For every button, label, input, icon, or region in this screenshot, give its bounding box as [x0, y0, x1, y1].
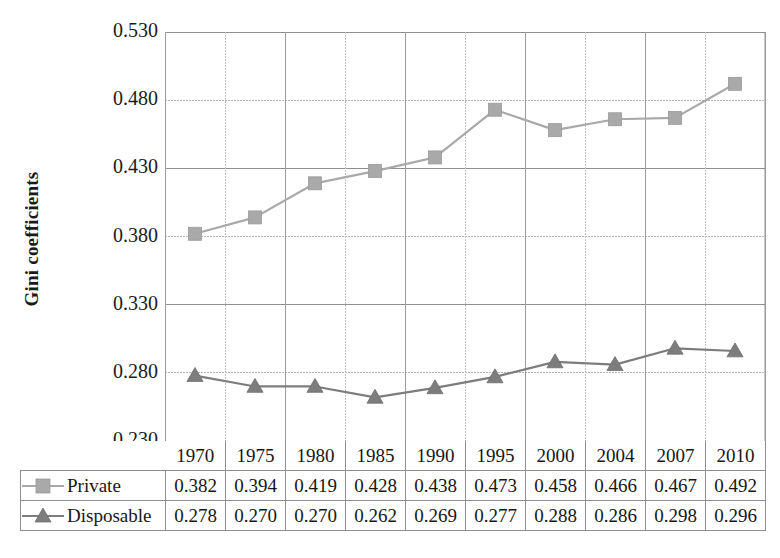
table-cell: 0.269 — [406, 501, 466, 531]
table-column-header: 2010 — [706, 441, 766, 471]
legend-label: Disposable — [67, 506, 151, 525]
marker-square — [189, 227, 202, 240]
data-point-disposable-2007 — [667, 340, 683, 354]
marker-square — [729, 77, 742, 90]
y-tick-label: 0.430 — [86, 155, 158, 178]
table-column-header: 1985 — [346, 441, 406, 471]
data-point-disposable-1980 — [307, 378, 323, 392]
legend-label: Private — [67, 476, 121, 495]
legend-row-disposable: Disposable — [21, 501, 166, 531]
data-point-private-1990 — [429, 151, 442, 164]
marker-square — [309, 177, 322, 190]
table-cell: 0.270 — [226, 501, 286, 531]
y-tick-label: 0.530 — [86, 19, 158, 42]
data-point-private-2004 — [609, 113, 622, 126]
data-point-private-1970 — [189, 227, 202, 240]
marker-triangle — [307, 378, 323, 392]
plot-area — [165, 32, 765, 441]
table-cell: 0.286 — [586, 501, 646, 531]
table-cell: 0.270 — [286, 501, 346, 531]
table-column-header: 1975 — [226, 441, 286, 471]
table-column-header: 2000 — [526, 441, 586, 471]
marker-square — [369, 165, 382, 178]
table-cell: 0.419 — [286, 471, 346, 501]
data-point-private-2010 — [729, 77, 742, 90]
marker-triangle — [547, 354, 563, 368]
marker-square — [549, 124, 562, 137]
table-column-header: 2004 — [586, 441, 646, 471]
y-tick-label: 0.480 — [86, 87, 158, 110]
table-cell: 0.278 — [166, 501, 226, 531]
chart-figure: Gini coefficients 0.5300.4800.4300.3800.… — [0, 0, 780, 558]
data-point-private-2007 — [669, 111, 682, 124]
table-cell: 0.458 — [526, 471, 586, 501]
data-table: 1970197519801985199019952000200420072010… — [20, 441, 766, 531]
table-cell: 0.438 — [406, 471, 466, 501]
marker-square — [609, 113, 622, 126]
y-tick-label: 0.380 — [86, 224, 158, 247]
legend-marker-triangle-icon — [21, 506, 65, 526]
plot-canvas — [165, 32, 765, 441]
table-header-row: 1970197519801985199019952000200420072010 — [21, 441, 766, 471]
y-tick-label: 0.330 — [86, 292, 158, 315]
table-column-header: 1990 — [406, 441, 466, 471]
table-cell: 0.492 — [706, 471, 766, 501]
data-point-disposable-1970 — [187, 368, 203, 382]
marker-square — [249, 211, 262, 224]
data-point-private-1985 — [369, 165, 382, 178]
table-column-header: 1970 — [166, 441, 226, 471]
table-cell: 0.262 — [346, 501, 406, 531]
table-cell: 0.382 — [166, 471, 226, 501]
data-table-wrapper: 1970197519801985199019952000200420072010… — [20, 441, 766, 531]
table-cell: 0.428 — [346, 471, 406, 501]
table-column-header: 2007 — [646, 441, 706, 471]
table-cell: 0.288 — [526, 501, 586, 531]
marker-square — [489, 103, 502, 116]
legend-marker-square-icon — [21, 476, 65, 496]
data-point-private-1975 — [249, 211, 262, 224]
legend-square — [36, 479, 50, 493]
y-axis-tick-labels: 0.5300.4800.4300.3800.3300.2800.230 — [86, 0, 158, 460]
marker-triangle — [187, 368, 203, 382]
bottom-caption-sliver — [80, 548, 700, 558]
data-point-disposable-2000 — [547, 354, 563, 368]
table-column-header: 1995 — [466, 441, 526, 471]
table-cell: 0.296 — [706, 501, 766, 531]
marker-triangle — [667, 340, 683, 354]
table-row: Private0.3820.3940.4190.4280.4380.4730.4… — [21, 471, 766, 501]
data-point-private-2000 — [549, 124, 562, 137]
marker-square — [669, 111, 682, 124]
table-cell: 0.394 — [226, 471, 286, 501]
data-point-private-1980 — [309, 177, 322, 190]
table-corner-cell — [21, 441, 166, 471]
data-point-private-1995 — [489, 103, 502, 116]
table-cell: 0.277 — [466, 501, 526, 531]
table-cell: 0.473 — [466, 471, 526, 501]
table-cell: 0.298 — [646, 501, 706, 531]
y-axis-title: Gini coefficients — [21, 124, 43, 354]
table-cell: 0.467 — [646, 471, 706, 501]
legend-row-private: Private — [21, 471, 166, 501]
table-row: Disposable0.2780.2700.2700.2620.2690.277… — [21, 501, 766, 531]
y-tick-label: 0.280 — [86, 360, 158, 383]
table-column-header: 1980 — [286, 441, 346, 471]
marker-square — [429, 151, 442, 164]
table-cell: 0.466 — [586, 471, 646, 501]
